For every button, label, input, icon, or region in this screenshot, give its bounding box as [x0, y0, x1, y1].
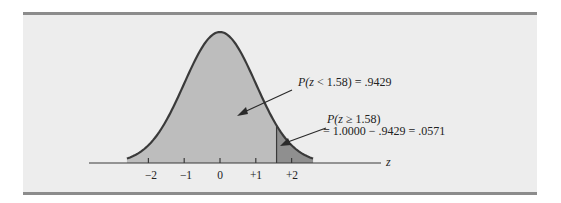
tick-label-minus-2: −2	[145, 169, 157, 181]
arrow-right-shaft	[285, 128, 326, 143]
tick-label-plus-2: +2	[286, 169, 298, 181]
annotation-left-probability: P(z < 1.58) = .9429	[297, 75, 392, 89]
tick-label-plus-1: +1	[250, 169, 262, 181]
normal-curve-chart: −2 −1 0 +1 +2 z P(z < 1.58) = .9429 P(z …	[0, 0, 561, 203]
axis-label-z: z	[385, 155, 391, 169]
tick-label-minus-1: −1	[180, 169, 192, 181]
annotation-right-calculation: = 1.0000 − .9429 = .0571	[323, 124, 445, 138]
tick-label-0: 0	[217, 169, 223, 181]
